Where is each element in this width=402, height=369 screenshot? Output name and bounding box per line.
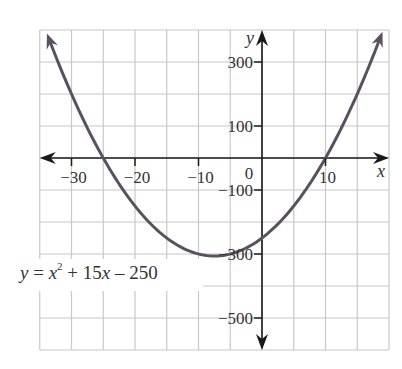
x-tick-label: −30 bbox=[60, 168, 87, 187]
y-tick-label: −100 bbox=[218, 181, 253, 200]
y-tick-label: −300 bbox=[218, 245, 253, 264]
eq-constant: – 250 bbox=[110, 262, 158, 283]
eq-equals: = bbox=[28, 262, 48, 283]
eq-x: x bbox=[49, 262, 57, 283]
parabola-chart: −30−20−10010300100−100−300−500 x y bbox=[0, 0, 402, 369]
y-tick-label: 300 bbox=[228, 53, 254, 72]
x-tick-label: −10 bbox=[187, 168, 214, 187]
x-tick-label: −20 bbox=[124, 168, 151, 187]
eq-linear-coef: + 15 bbox=[63, 262, 102, 283]
x-axis-label: x bbox=[376, 161, 385, 181]
grid bbox=[40, 30, 389, 350]
curve-arrowheads bbox=[47, 32, 383, 50]
x-tick-label: 10 bbox=[319, 168, 336, 187]
y-axis-label: y bbox=[244, 28, 254, 48]
y-tick-label: −500 bbox=[218, 309, 253, 328]
equation-label: y = x2 + 15x – 250 bbox=[20, 262, 158, 284]
y-tick-label: 100 bbox=[228, 117, 254, 136]
eq-x-linear: x bbox=[102, 262, 110, 283]
parabola-curve bbox=[49, 37, 381, 256]
